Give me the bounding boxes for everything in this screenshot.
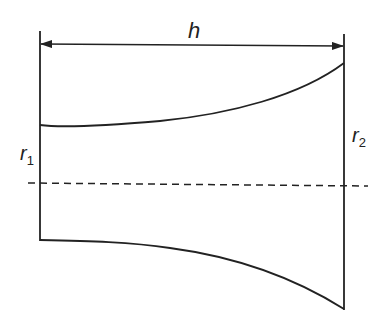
top-profile-curve (40, 63, 344, 126)
label-h: h (188, 18, 200, 43)
dimension-arrow-h (41, 44, 343, 46)
label-r2: r2 (352, 124, 366, 150)
label-r1: r1 (20, 142, 34, 168)
bottom-profile-curve (40, 240, 344, 309)
horn-profile-diagram: h r1 r2 (0, 0, 381, 326)
axis-centerline (28, 183, 368, 186)
